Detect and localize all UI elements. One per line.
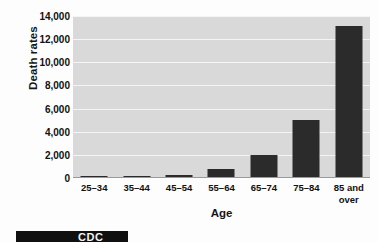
plot-area bbox=[73, 16, 370, 178]
bar[interactable] bbox=[335, 26, 362, 178]
y-axis-tick-labels: 02,0004,0006,0008,00010,00012,00014,000 bbox=[26, 10, 70, 182]
x-axis-tick-label: 85 andover bbox=[328, 182, 370, 205]
y-axis-tick-label: 14,000 bbox=[26, 11, 70, 22]
x-axis-tick-label-line2: over bbox=[339, 194, 359, 205]
footer-banner-text: CDC bbox=[78, 232, 103, 242]
bar-slot bbox=[115, 16, 157, 178]
bar[interactable] bbox=[293, 120, 320, 178]
x-axis-tick-label: 45–54 bbox=[158, 182, 200, 194]
x-axis-tick-label: 55–64 bbox=[200, 182, 242, 194]
bar-slot bbox=[73, 16, 115, 178]
footer-banner: CDC bbox=[16, 231, 128, 242]
bar-slot bbox=[200, 16, 242, 178]
x-axis-tick-label: 65–74 bbox=[243, 182, 285, 194]
y-axis-tick-label: 6,000 bbox=[26, 103, 70, 114]
y-axis-tick-label: 4,000 bbox=[26, 126, 70, 137]
bar-slot bbox=[285, 16, 327, 178]
bar-slot bbox=[328, 16, 370, 178]
x-axis-line bbox=[73, 177, 370, 179]
bar-slot bbox=[158, 16, 200, 178]
bar-slot bbox=[243, 16, 285, 178]
x-axis-tick-label: 35–44 bbox=[115, 182, 157, 194]
bar[interactable] bbox=[250, 155, 277, 178]
bars-layer bbox=[73, 16, 370, 178]
y-axis-tick-label: 2,000 bbox=[26, 149, 70, 160]
y-axis-tick-label: 10,000 bbox=[26, 57, 70, 68]
bar-chart-figure: Death rates 02,0004,0006,0008,00010,0001… bbox=[0, 0, 378, 242]
x-axis-title: Age bbox=[73, 207, 370, 219]
x-axis-tick-label: 75–84 bbox=[285, 182, 327, 194]
y-axis-tick-label: 12,000 bbox=[26, 34, 70, 45]
y-axis-tick-label: 0 bbox=[26, 173, 70, 184]
y-axis-tick-label: 8,000 bbox=[26, 80, 70, 91]
x-axis-tick-label: 25–34 bbox=[73, 182, 115, 194]
